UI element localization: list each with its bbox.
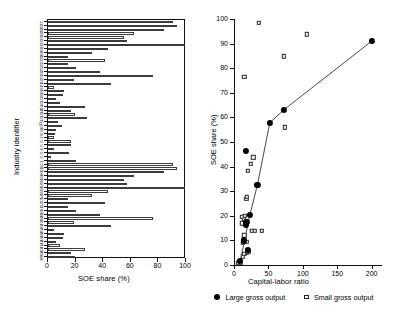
bar [48,29,164,31]
bar-y-tick [44,48,48,49]
scatter-y-tick [230,19,234,20]
bar-y-tick [44,248,48,249]
bar [48,86,54,88]
bar [48,160,76,162]
bar [48,148,54,150]
bar-y-tick [44,36,48,37]
bar [48,113,75,115]
bar [48,202,105,204]
bar-y-tick [44,75,48,76]
bar [48,175,134,177]
bar-y-tick [44,121,48,122]
bar [48,241,56,243]
bar-y-tick [44,113,48,114]
bar-y-tick [44,21,48,22]
bar-x-tick-label: 20 [71,262,79,269]
bar-y-tick [44,221,48,222]
bar [48,171,164,173]
bar-y-tick [44,59,48,60]
scatter-y-tick-label: 70 [220,89,228,96]
scatter-y-tick-label: 90 [220,40,228,47]
scatter-y-tick [230,117,234,118]
bar-y-ticks [43,19,47,258]
bar-y-tick [44,252,48,253]
bar-y-tick [44,218,48,219]
bar-y-tick [44,233,48,234]
scatter-y-tick [230,142,234,143]
scatter-point-small [281,54,285,58]
bar-y-tick [44,202,48,203]
scatter-point-small [251,155,255,159]
scatter-x-tick [303,265,304,269]
legend-label-small: Small gross output [314,293,374,302]
scatter-point-small [257,20,261,24]
bar [48,117,87,119]
bar [48,194,92,196]
bar-y-tick [44,129,48,130]
bar-y-tick [44,67,48,68]
bar [48,179,124,181]
bar [48,190,108,192]
scatter-x-tick-label: 150 [331,270,343,277]
bar [48,121,58,123]
scatter-point-small [245,194,249,198]
bar-y-tick [44,40,48,41]
bar-y-tick [44,83,48,84]
bar [48,36,124,38]
bar-x-tick [130,258,131,262]
bar-y-tick [44,117,48,118]
scatter-point-small [248,161,252,165]
bar-y-tick [44,148,48,149]
bar-y-tick [44,256,48,257]
bar [48,136,54,138]
bar [48,83,111,85]
scatter-y-tick-label: 60 [220,113,228,120]
bar [48,214,100,216]
bar [48,63,68,65]
scatter-x-tick-label: 50 [265,270,273,277]
bar [48,167,177,169]
bar-x-tick-label: 0 [45,262,49,269]
bar-plot-area [47,19,185,258]
bar [48,252,71,254]
bar [48,71,100,73]
bar [48,244,60,246]
bar-y-tick [44,175,48,176]
bar-y-tick [44,137,48,138]
bar-y-tick [44,63,48,64]
bar-y-tick [44,198,48,199]
scatter-point-small [305,32,309,36]
figure-two-panel: Industry identifier 37363534333231302928… [0,0,401,318]
scatter-y-tick [230,93,234,94]
bar [48,125,62,127]
scatter-point-small [259,228,263,232]
bar-x-tick [157,258,158,262]
bar-y-tick [44,98,48,99]
bar [48,140,71,142]
bar [48,187,185,189]
bar-y-tick [44,125,48,126]
bar-y-tick [44,102,48,103]
bar-y-tick [44,179,48,180]
bar [48,217,153,219]
scatter-x-tick [268,265,269,269]
bar-y-tick [44,210,48,211]
bar-y-tick [44,140,48,141]
scatter-point-small [242,75,246,79]
scatter-point-small [283,125,287,129]
bar [48,229,54,231]
bar [48,90,64,92]
bar-y-tick [44,144,48,145]
scatter-y-tick-label: 0 [224,261,228,268]
bar-y-tick [44,94,48,95]
bar [48,163,173,165]
bar-y-tick [44,225,48,226]
bar-y-tick [44,44,48,45]
scatter-y-tick-label: 80 [220,64,228,71]
bar-x-tick [75,258,76,262]
scatter-y-tick-label: 20 [220,212,228,219]
scatter-y-tick-label: 10 [220,236,228,243]
bar [48,129,56,131]
scatter-x-tick [337,265,338,269]
bar [48,94,63,96]
